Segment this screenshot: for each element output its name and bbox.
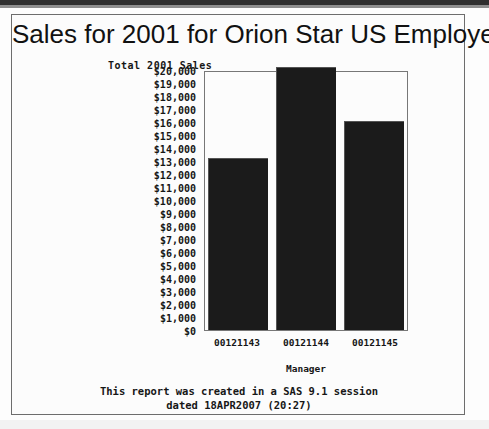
y-axis-tick-label: $6,000: [160, 248, 196, 259]
y-axis-tick-label: $7,000: [160, 235, 196, 246]
x-axis-title: Manager: [204, 363, 408, 374]
y-axis-tick-label: $11,000: [154, 183, 196, 194]
scan-bottom-edge: [0, 420, 489, 429]
y-axis-tick-label: $13,000: [154, 157, 196, 168]
scan-edge-band-secondary: [0, 5, 489, 8]
y-axis-tick-label: $10,000: [154, 196, 196, 207]
footnote-line-1: This report was created in a SAS 9.1 ses…: [100, 385, 378, 397]
x-axis-tick-label: 00121143: [206, 337, 268, 348]
y-axis-tick-label: $15,000: [154, 131, 196, 142]
y-axis-tick-label: $3,000: [160, 287, 196, 298]
y-axis-tick-label: $8,000: [160, 222, 196, 233]
y-axis-tick-label: $12,000: [154, 170, 196, 181]
y-axis-tick-label: $1,000: [160, 313, 196, 324]
report-footnote: This report was created in a SAS 9.1 ses…: [12, 384, 466, 412]
footnote-line-2: dated 18APR2007 (20:27): [12, 398, 466, 412]
y-axis-tick-label: $5,000: [160, 261, 196, 272]
y-axis-tick-label: $9,000: [160, 209, 196, 220]
bar-series: [205, 72, 407, 330]
bar-00121145: [344, 121, 404, 330]
x-axis-tick-label: 00121144: [275, 337, 337, 348]
bar-00121144: [276, 67, 336, 330]
y-axis-tick-label: $20,000: [154, 66, 196, 77]
y-axis-tick-labels: $0$1,000$2,000$3,000$4,000$5,000$6,000$7…: [122, 71, 202, 331]
y-axis-tick-label: $4,000: [160, 274, 196, 285]
y-axis-tick-label: $0: [184, 326, 196, 337]
y-axis-tick-label: $18,000: [154, 92, 196, 103]
scanned-page: Sales for 2001 for Orion Star US Employe…: [0, 0, 489, 429]
y-axis-tick-label: $16,000: [154, 118, 196, 129]
y-axis-tick-label: $19,000: [154, 79, 196, 90]
x-axis-tick-label: 00121145: [344, 337, 406, 348]
y-axis-tick-label: $14,000: [154, 144, 196, 155]
report-frame: Sales for 2001 for Orion Star US Employe…: [11, 14, 465, 415]
y-axis-tick-label: $17,000: [154, 105, 196, 116]
chart-title: Sales for 2001 for Orion Star US Employe…: [12, 19, 466, 50]
plot-area: [204, 71, 408, 331]
bar-00121143: [208, 158, 268, 330]
x-axis-tick-labels: 001211430012114400121145: [204, 337, 408, 348]
y-axis-tick-label: $2,000: [160, 300, 196, 311]
